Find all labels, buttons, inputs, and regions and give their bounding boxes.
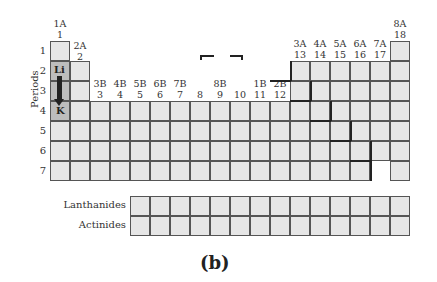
element-cell xyxy=(150,121,170,141)
actinide-cell xyxy=(370,216,390,236)
lanthanides-label: Lanthanides xyxy=(46,199,126,210)
group-label-a: 5B xyxy=(130,79,150,89)
element-cell xyxy=(70,61,90,81)
group-label-n: 1 xyxy=(50,30,70,40)
element-cell xyxy=(330,101,350,121)
element-cell xyxy=(250,101,270,121)
metal-nonmetal-divider xyxy=(310,81,312,101)
group-label-a: 8B xyxy=(210,79,230,89)
group-label-n: 9 xyxy=(210,90,230,100)
group-label-a: 7B xyxy=(170,79,190,89)
lanthanide-cell xyxy=(250,196,270,216)
element-cell xyxy=(270,141,290,161)
group-label-a: 5A xyxy=(330,39,350,49)
down-arrow-head xyxy=(54,99,64,106)
element-cell xyxy=(250,121,270,141)
group-label-a: 4B xyxy=(110,79,130,89)
group-label-a: 4A xyxy=(310,39,330,49)
element-cell xyxy=(90,121,110,141)
element-cell xyxy=(170,121,190,141)
group-label-a: 1A xyxy=(50,19,70,29)
element-cell xyxy=(190,121,210,141)
element-li: Li xyxy=(54,64,65,75)
group-8b-bracket-left-tick xyxy=(200,55,202,60)
element-cell xyxy=(130,121,150,141)
group-label-a: 1B xyxy=(250,79,270,89)
element-cell xyxy=(350,61,370,81)
element-cell xyxy=(210,161,230,181)
element-cell xyxy=(170,101,190,121)
group-label-n: 10 xyxy=(230,90,250,100)
actinide-cell xyxy=(290,216,310,236)
lanthanide-cell xyxy=(170,196,190,216)
metal-nonmetal-divider xyxy=(350,121,352,141)
element-cell xyxy=(70,161,90,181)
element-cell xyxy=(310,61,330,81)
actinide-cell xyxy=(350,216,370,236)
lanthanide-cell xyxy=(190,196,210,216)
periods-axis-label: Periods xyxy=(29,70,40,108)
actinide-cell xyxy=(170,216,190,236)
actinide-cell xyxy=(210,216,230,236)
element-cell xyxy=(230,101,250,121)
element-cell xyxy=(330,81,350,101)
metal-nonmetal-divider xyxy=(370,141,372,181)
element-cell xyxy=(70,81,90,101)
group-label-n: 15 xyxy=(330,50,350,60)
group-label-n: 17 xyxy=(370,50,390,60)
element-cell xyxy=(290,161,310,181)
element-cell xyxy=(230,161,250,181)
element-cell xyxy=(290,61,310,81)
group-8b-bracket-left xyxy=(200,55,214,57)
element-cell xyxy=(230,121,250,141)
element-cell xyxy=(350,161,370,181)
element-cell xyxy=(110,161,130,181)
element-cell xyxy=(330,141,350,161)
group-label-n: 3 xyxy=(90,90,110,100)
element-cell xyxy=(150,141,170,161)
element-cell xyxy=(350,141,370,161)
actinide-cell xyxy=(190,216,210,236)
group-label-n: 18 xyxy=(390,30,410,40)
element-cell xyxy=(370,61,390,81)
metal-nonmetal-divider xyxy=(290,61,292,81)
element-cell xyxy=(270,161,290,181)
metal-nonmetal-divider xyxy=(310,120,331,122)
element-cell xyxy=(50,121,70,141)
element-cell xyxy=(290,101,310,121)
element-cell xyxy=(390,81,410,101)
element-cell xyxy=(310,141,330,161)
element-cell xyxy=(330,161,350,181)
group-label-n: 14 xyxy=(310,50,330,60)
actinide-cell xyxy=(250,216,270,236)
element-cell xyxy=(230,141,250,161)
element-cell xyxy=(310,161,330,181)
element-cell xyxy=(50,41,70,61)
element-cell xyxy=(330,61,350,81)
group-label-a: 7A xyxy=(370,39,390,49)
metal-nonmetal-divider xyxy=(330,101,332,121)
element-cell xyxy=(370,141,390,161)
group-label-n: 12 xyxy=(270,90,290,100)
element-cell xyxy=(370,81,390,101)
element-cell xyxy=(250,161,270,181)
figure-caption: (b) xyxy=(200,252,230,273)
lanthanide-cell xyxy=(150,196,170,216)
group-label-n: 4 xyxy=(110,90,130,100)
element-cell xyxy=(250,141,270,161)
actinides-label: Actinides xyxy=(46,219,126,230)
group-label-a: 6B xyxy=(150,79,170,89)
element-cell xyxy=(310,81,330,101)
element-cell xyxy=(290,141,310,161)
element-cell xyxy=(350,121,370,141)
actinide-cell xyxy=(310,216,330,236)
group-label-n: 7 xyxy=(170,90,190,100)
group-label-a: 2A xyxy=(70,41,90,51)
element-cell xyxy=(290,81,310,101)
element-cell xyxy=(90,141,110,161)
element-cell xyxy=(190,161,210,181)
element-cell xyxy=(50,141,70,161)
element-cell xyxy=(90,101,110,121)
element-cell xyxy=(70,101,90,121)
element-cell xyxy=(150,161,170,181)
